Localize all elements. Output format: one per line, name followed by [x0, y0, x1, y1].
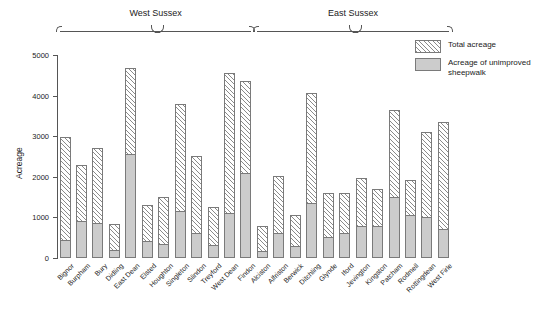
y-tick-2000 [53, 177, 57, 178]
bar-west-firle [438, 122, 449, 258]
y-tick-label-0: 0 [15, 254, 49, 263]
bar-didling [109, 224, 120, 258]
bar-ditchling [306, 93, 317, 258]
bar-bury [92, 148, 103, 258]
legend-label-unimproved-sheepwalk: Acreage of unimproved sheepwalk [448, 58, 534, 77]
bar-unimproved-segment [60, 240, 71, 258]
bar-rodmell [405, 180, 416, 258]
bar-bignor [60, 137, 71, 258]
y-tick-label-4000: 4000 [15, 92, 49, 101]
bar-unimproved-segment [92, 223, 103, 258]
bar-burpham [76, 165, 87, 258]
bar-unimproved-segment [323, 237, 334, 258]
bar-unimproved-segment [175, 211, 186, 258]
group-label-west-sussex: West Sussex [129, 8, 181, 18]
y-tick-1000 [53, 217, 57, 218]
legend-swatch-solid-gray [415, 58, 441, 71]
group-bracket-west-sussex [56, 24, 256, 32]
bar-unimproved-segment [389, 197, 400, 258]
bar-unimproved-segment [372, 226, 383, 258]
bar-unimproved-segment [109, 250, 120, 258]
bar-unimproved-segment [224, 213, 235, 258]
bar-berwick [290, 215, 301, 258]
bar-treyford [208, 207, 219, 258]
y-tick-label-5000: 5000 [15, 51, 49, 60]
bar-unimproved-segment [405, 215, 416, 258]
bar-unimproved-segment [306, 203, 317, 258]
bar-unimproved-segment [142, 241, 153, 258]
bar-kingston [372, 189, 383, 258]
bar-unimproved-segment [438, 229, 449, 258]
bar-slindon [191, 156, 202, 258]
legend-swatch-hatched [415, 40, 441, 53]
bar-alfriston [273, 176, 284, 258]
y-tick-0 [53, 258, 57, 259]
chart-legend: Total acreage Acreage of unimproved shee… [415, 40, 535, 58]
bar-unimproved-segment [158, 244, 169, 258]
bar-unimproved-segment [208, 245, 219, 258]
chart-root: West Sussex East Sussex Acreage 01000200… [0, 0, 538, 313]
bar-iford [339, 193, 350, 258]
group-bracket-east-sussex [253, 24, 453, 32]
bar-unimproved-segment [339, 233, 350, 258]
bar-unimproved-segment [191, 233, 202, 258]
bar-unimproved-segment [125, 154, 136, 258]
bar-alciston [257, 226, 268, 258]
bar-elsted [142, 205, 153, 258]
bar-unimproved-segment [421, 217, 432, 258]
group-label-east-sussex: East Sussex [328, 8, 378, 18]
y-tick-5000 [53, 55, 57, 56]
bar-findon [240, 81, 251, 258]
y-tick-3000 [53, 136, 57, 137]
y-axis-line [57, 55, 58, 259]
bar-unimproved-segment [76, 221, 87, 258]
y-tick-4000 [53, 96, 57, 97]
bar-glynde [323, 193, 334, 258]
bar-east-dean [125, 68, 136, 258]
y-tick-label-3000: 3000 [15, 132, 49, 141]
bar-rottingdean [421, 132, 432, 258]
y-tick-label-1000: 1000 [15, 213, 49, 222]
bar-unimproved-segment [290, 246, 301, 258]
bar-patcham [389, 110, 400, 258]
legend-label-total-acreage: Total acreage [448, 40, 534, 50]
bar-unimproved-segment [240, 173, 251, 258]
bar-unimproved-segment [356, 226, 367, 258]
bar-singleton [175, 104, 186, 258]
bar-west-dean [224, 73, 235, 258]
bar-houghton [158, 197, 169, 258]
bar-unimproved-segment [257, 251, 268, 258]
bracket-cap-right [447, 26, 453, 32]
y-tick-label-2000: 2000 [15, 173, 49, 182]
bar-unimproved-segment [273, 233, 284, 258]
bar-jevington [356, 178, 367, 258]
